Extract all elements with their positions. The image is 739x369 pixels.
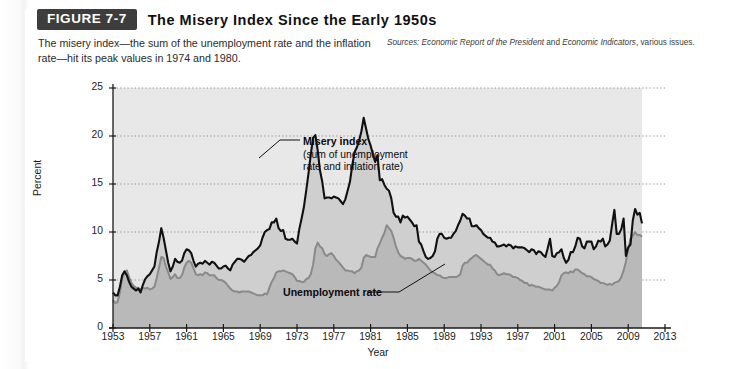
- figure-page: FIGURE 7-7 The Misery Index Since the Ea…: [0, 0, 739, 369]
- x-tick-label: 1973: [277, 331, 317, 342]
- sources-italic-two: Economic Indicators: [562, 38, 636, 47]
- x-tick-label: 2001: [535, 331, 575, 342]
- x-tick-label: 1965: [203, 331, 243, 342]
- x-tick-label: 1997: [498, 331, 538, 342]
- annotation-misery-sub-2: rate and inflation rate): [303, 161, 403, 172]
- x-tick-label: 1953: [93, 331, 133, 342]
- annotation-misery-index: Misery index (sum of unemployment rate a…: [303, 135, 408, 174]
- annotation-unemployment-rate: Unemployment rate: [283, 286, 382, 299]
- figure-header: FIGURE 7-7 The Misery Index Since the Ea…: [37, 9, 437, 30]
- sources-suffix: , various issues.: [636, 38, 695, 47]
- annotation-misery-sub-1: (sum of unemployment: [303, 149, 408, 160]
- x-tick-label: 1957: [130, 331, 170, 342]
- figure-number-tag: FIGURE 7-7: [37, 9, 137, 30]
- x-tick-label: 2013: [645, 331, 685, 342]
- y-axis-label: Percent: [31, 160, 43, 196]
- misery-index-chart: [37, 78, 719, 363]
- figure-title: The Misery Index Since the Early 1950s: [148, 12, 437, 28]
- x-tick-label: 1985: [387, 331, 427, 342]
- x-tick-label: 2005: [571, 331, 611, 342]
- y-tick-label: 5: [73, 273, 103, 284]
- x-tick-label: 1961: [167, 331, 207, 342]
- x-tick-label: 1981: [351, 331, 391, 342]
- y-tick-label: 20: [73, 129, 103, 140]
- x-tick-label: 1993: [461, 331, 501, 342]
- sources-mid: and: [544, 38, 562, 47]
- figure-caption: The misery index—the sum of the unemploy…: [38, 36, 378, 65]
- sources-italic-one: Economic Report of the President: [422, 38, 544, 47]
- x-tick-label: 2009: [608, 331, 648, 342]
- y-tick-label: 10: [73, 225, 103, 236]
- x-axis-label: Year: [37, 346, 719, 358]
- figure-sources: Sources: Economic Report of the Presiden…: [387, 37, 707, 49]
- x-tick-label: 1977: [314, 331, 354, 342]
- y-tick-label: 25: [73, 81, 103, 92]
- y-tick-label: 15: [73, 177, 103, 188]
- sources-prefix: Sources:: [387, 38, 419, 47]
- annotation-misery-title: Misery index: [303, 135, 367, 147]
- x-tick-label: 1989: [424, 331, 464, 342]
- x-tick-label: 1969: [240, 331, 280, 342]
- chart-container: Percent Year 0510152025 1953195719611965…: [37, 78, 719, 363]
